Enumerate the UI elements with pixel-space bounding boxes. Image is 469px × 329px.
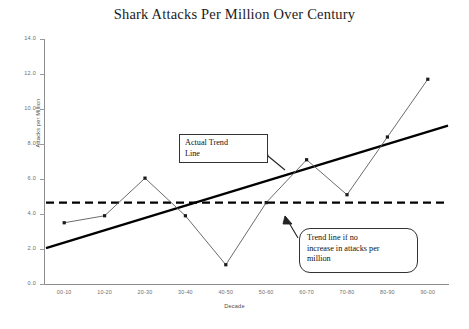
chart-container: Shark Attacks Per Million Over Century A… [0,0,469,329]
data-point-marker [305,158,308,161]
chart-plot [0,0,469,329]
data-point-marker [386,135,389,138]
actual-trend-leader [268,156,285,170]
data-point-marker [224,263,227,266]
annotation-actual-trend: Actual Trend Line [179,134,269,164]
flat-trend-arrowhead [283,216,292,224]
annotation-flat-line1: Trend line if no [307,233,411,244]
annotation-flat-trend-text: Trend line if no increase in attacks per… [307,233,411,265]
annotation-actual-line2: Line [185,149,263,160]
data-point-marker [184,214,187,217]
data-point-marker [265,201,268,204]
annotation-flat-line3: million [307,254,411,265]
data-point-marker [345,193,348,196]
annotation-actual-line1: Actual Trend [185,138,263,149]
data-point-marker [143,177,146,180]
data-point-marker [103,214,106,217]
data-point-marker [63,221,66,224]
annotation-flat-line2: increase in attacks per [307,244,411,255]
annotation-actual-trend-text: Actual Trend Line [185,138,263,159]
annotation-flat-trend: Trend line if no increase in attacks per… [299,228,419,274]
data-point-marker [426,78,429,81]
